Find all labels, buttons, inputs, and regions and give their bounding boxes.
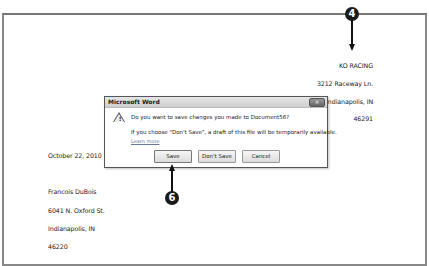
sender-city-state: Indianapolis, IN [326,98,373,105]
recipient-name: Francois DuBois [48,188,97,195]
letter-date: October 22, 2010 [48,152,102,159]
callout-step-6: 6 [165,191,179,205]
dialog-title: Microsoft Word [108,98,160,105]
sender-zip: 46291 [353,115,373,122]
dialog-message: Do you want to save changes you made to … [131,114,289,120]
callout-step-4: 4 [345,7,359,21]
recipient-street: 6041 N. Oxford St. [48,207,105,214]
dont-save-button[interactable]: Don't Save [198,150,236,163]
learn-more-link[interactable]: Learn more [131,138,160,144]
callout-4-arrow-line [351,20,353,44]
close-button[interactable]: ✕ [309,98,325,107]
dialog-title-bar: Microsoft Word ✕ [105,97,327,108]
warning-exclamation-icon: ! [117,115,123,122]
callout-4-arrow-head [349,44,355,51]
recipient-city-state: Indianapolis, IN [48,225,95,232]
save-button[interactable]: Save [154,150,192,163]
callout-6-arrow-line [171,170,173,192]
dialog-detail: If you choose "Don't Save", a draft of t… [131,129,337,135]
save-changes-dialog: Microsoft Word ✕ ! Do you want to save c… [104,96,328,168]
cancel-button[interactable]: Cancel [242,150,280,163]
sender-company: KO RACING [339,62,373,69]
sender-street: 3212 Raceway Ln. [317,80,373,87]
recipient-zip: 46220 [48,243,68,250]
